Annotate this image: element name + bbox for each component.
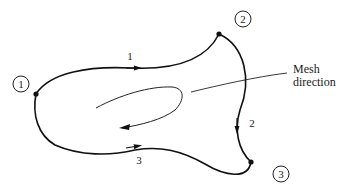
node-2-label: 2 [235,11,251,27]
edge-1 [36,34,219,94]
mesh-diagram: 1 2 3 1 2 3 Mesh direction [0,0,347,189]
node-3-label: 3 [273,166,289,182]
edge-2-label: 2 [249,117,255,129]
edge-3-arrow-icon [126,146,138,148]
node-2-text: 2 [240,13,246,25]
node-1-label: 1 [13,76,29,92]
edge-2 [219,34,251,162]
annotation-line-1: Mesh [293,62,320,76]
annotation-line-2: direction [293,75,336,89]
edge-3 [35,94,251,174]
node-1-text: 1 [18,78,24,90]
edge-1-label: 1 [127,50,133,62]
annotation-leader-line [191,73,287,92]
node-3-dot [248,159,253,164]
node-2-dot [216,31,221,36]
mesh-direction-arrow-icon [119,124,130,130]
node-1-dot [33,91,38,96]
mesh-direction-spiral [96,87,182,128]
node-3-text: 3 [278,168,284,180]
edge-3-label: 3 [136,154,142,166]
